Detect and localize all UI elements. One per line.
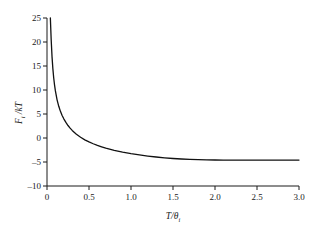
chart-figure: –10–50510152025 00.51.01.52.02.53.0 Fi /… — [0, 0, 314, 228]
svg-text:Fi /kT: Fi /kT — [14, 101, 26, 125]
x-axis-title-main: T/θ — [166, 211, 179, 221]
x-tick-label: 2.5 — [251, 192, 263, 202]
x-tick-label: 1.0 — [125, 192, 137, 202]
svg-text:T/θi: T/θi — [166, 211, 181, 223]
free-energy-line-chart: –10–50510152025 00.51.01.52.02.53.0 Fi /… — [0, 0, 314, 228]
y-tick-label: 25 — [32, 13, 42, 23]
y-tick-label: –5 — [31, 157, 42, 167]
x-tick-label: 0.5 — [83, 192, 95, 202]
x-axis-title: T/θi — [166, 211, 181, 223]
y-tick-label: 5 — [37, 109, 42, 119]
x-tick-label: 2.0 — [209, 192, 221, 202]
y-tick-label: 20 — [32, 37, 42, 47]
y-tick-label: 10 — [32, 85, 42, 95]
y-tick-label: 0 — [37, 133, 42, 143]
y-tick-label: –10 — [27, 181, 42, 191]
x-tick-label: 1.5 — [167, 192, 179, 202]
y-tick-label: 15 — [32, 61, 42, 71]
y-axis-title: Fi /kT — [14, 101, 26, 125]
x-tick-label: 0 — [45, 192, 50, 202]
y-axis-title-rest: /kT — [14, 101, 24, 116]
x-axis-title-subscript: i — [178, 216, 180, 223]
x-tick-label: 3.0 — [293, 192, 305, 202]
